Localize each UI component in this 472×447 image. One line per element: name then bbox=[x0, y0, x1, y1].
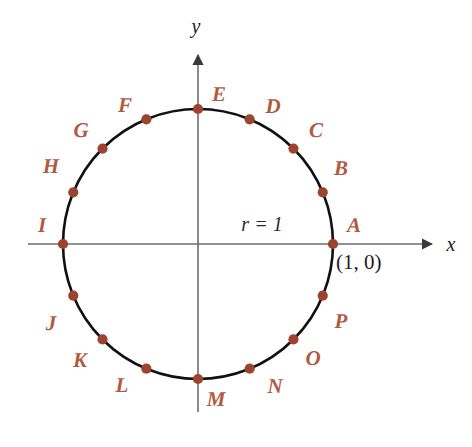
point-label-a: A bbox=[347, 215, 361, 236]
point-marker-e bbox=[193, 104, 203, 114]
point-marker-d bbox=[245, 114, 255, 124]
point-label-h: H bbox=[43, 156, 59, 177]
radius-annotation: r = 1 bbox=[241, 214, 282, 234]
point-marker-i bbox=[58, 239, 68, 249]
point-marker-l bbox=[141, 364, 151, 374]
point-label-e: E bbox=[212, 84, 226, 105]
point-marker-n bbox=[245, 364, 255, 374]
point-marker-g bbox=[97, 143, 107, 153]
point-marker-h bbox=[68, 187, 78, 197]
point-label-f: F bbox=[118, 95, 132, 116]
point-label-d: D bbox=[265, 96, 280, 117]
unit-circle-figure: ABCDEFGHIJKLMNOP r = 1 (1, 0) x y bbox=[0, 0, 472, 447]
point-label-g: G bbox=[73, 120, 88, 141]
point-marker-b bbox=[318, 187, 328, 197]
point-marker-j bbox=[68, 291, 78, 301]
point-label-o: O bbox=[305, 348, 320, 369]
point-label-j: J bbox=[46, 313, 57, 334]
point-label-p: P bbox=[335, 311, 348, 332]
point-marker-k bbox=[97, 334, 107, 344]
x-axis-label: x bbox=[447, 234, 456, 254]
point-label-k: K bbox=[73, 350, 87, 371]
point-label-l: L bbox=[116, 375, 129, 396]
y-axis-label: y bbox=[192, 16, 201, 36]
point-label-i: I bbox=[38, 215, 46, 236]
point-a-coordinates: (1, 0) bbox=[336, 252, 382, 273]
point-marker-o bbox=[288, 334, 298, 344]
point-label-m: M bbox=[207, 389, 226, 410]
point-label-b: B bbox=[334, 158, 348, 179]
point-marker-f bbox=[141, 114, 151, 124]
figure-canvas bbox=[0, 0, 472, 447]
point-marker-m bbox=[193, 374, 203, 384]
point-marker-p bbox=[318, 291, 328, 301]
point-marker-c bbox=[288, 143, 298, 153]
axes-group bbox=[28, 55, 432, 412]
point-label-n: N bbox=[267, 376, 282, 397]
point-marker-a bbox=[328, 239, 338, 249]
point-label-c: C bbox=[309, 120, 323, 141]
